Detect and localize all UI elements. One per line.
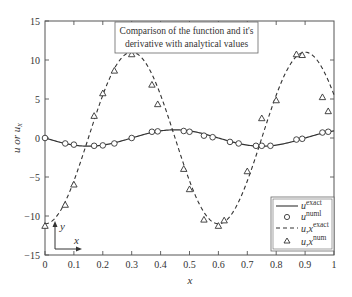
ux-num-marker — [181, 166, 187, 172]
y-tick-label: 5 — [35, 94, 40, 105]
u-numl-marker — [201, 133, 207, 139]
u-numl-marker — [236, 141, 242, 147]
ux-num-marker — [100, 90, 106, 96]
ux-num-marker — [71, 181, 77, 187]
legend: uexact unuml u,xexact u,xnum — [271, 197, 334, 251]
y-tick-label: 0 — [35, 133, 40, 144]
u-numl-marker — [71, 142, 77, 148]
u-numl-marker — [187, 129, 193, 135]
y-tick-label: −5 — [29, 172, 40, 183]
u-numl-marker — [129, 135, 135, 141]
u-numl-marker — [259, 143, 265, 149]
u-numl-marker — [294, 137, 300, 143]
title-box: Comparison of the function and it's deri… — [115, 22, 258, 53]
y-axis-label: u or ux — [10, 123, 24, 153]
x-tick-label: 0.2 — [97, 259, 110, 270]
u-numl-marker — [268, 143, 274, 149]
u-numl-marker — [210, 134, 216, 140]
legend-circle-marker-icon — [284, 214, 289, 219]
inset-y-label: y — [59, 220, 65, 232]
y-tick-label: −10 — [24, 211, 40, 222]
ux-num-marker — [62, 202, 68, 208]
ux-num-marker — [244, 168, 250, 174]
x-tick-label: 0 — [43, 259, 48, 270]
u-numl-marker — [299, 136, 305, 142]
u-numl-marker — [62, 141, 68, 147]
u-numl-marker — [320, 130, 326, 136]
chart-title-line-2: derivative with analytical values — [125, 39, 248, 49]
x-axis-label: x — [187, 274, 193, 286]
y-tick-label: 10 — [30, 55, 40, 66]
u-numl-marker — [91, 143, 97, 149]
ux-num-marker — [319, 94, 325, 100]
y-tick-label: −15 — [24, 250, 40, 261]
ux-num-marker — [91, 113, 97, 119]
ux-num-marker — [155, 101, 161, 107]
ux-num-marker — [149, 81, 155, 87]
inset-x-label: x — [73, 234, 79, 246]
x-tick-label: 0.6 — [212, 259, 225, 270]
x-tick-label: 0.3 — [125, 259, 138, 270]
u-numl-marker — [325, 129, 331, 135]
ux-num-marker — [186, 186, 192, 192]
u-numl-marker — [112, 141, 118, 147]
x-tick-label: 0.5 — [183, 259, 196, 270]
u-numl-marker — [100, 143, 106, 149]
ux-num-marker — [111, 67, 117, 73]
u-numl-marker — [155, 129, 161, 135]
x-tick-label: 1 — [332, 259, 337, 270]
ux-num-marker — [259, 115, 265, 121]
x-tick-label: 0.9 — [299, 259, 312, 270]
ux-num-marker — [221, 217, 227, 223]
ux-num-marker — [299, 52, 305, 58]
u-numl-marker — [227, 139, 233, 145]
x-tick-label: 0.1 — [68, 259, 81, 270]
ux-num-marker — [293, 51, 299, 57]
chart: 00.10.20.30.40.50.60.70.80.91151050−5−10… — [0, 0, 352, 297]
u-numl-marker — [253, 143, 259, 149]
x-tick-label: 0.8 — [270, 259, 283, 270]
chart-title-line-1: Comparison of the function and it's — [120, 26, 254, 36]
xy-axes-inset-icon: y x — [53, 220, 83, 252]
x-tick-label: 0.7 — [241, 259, 254, 270]
u-numl-marker — [181, 128, 187, 134]
ux-num-marker — [325, 108, 331, 114]
u-numl-marker — [149, 129, 155, 135]
y-tick-label: 15 — [30, 16, 40, 27]
ux-num-marker — [201, 216, 207, 222]
x-tick-label: 0.4 — [154, 259, 167, 270]
u-numl-marker — [42, 135, 48, 141]
